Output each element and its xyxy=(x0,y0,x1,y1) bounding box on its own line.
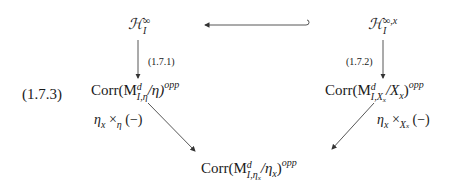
right-diagonal-arrow xyxy=(332,103,374,149)
equation-number: (1.7.3) xyxy=(22,86,62,103)
label-right-diagonal: ηx ×Xx (−) xyxy=(377,113,430,127)
node-top-right: ℋ∞,xI xyxy=(368,16,397,36)
node-top-left: ℋ∞I xyxy=(128,16,150,36)
hook-icon xyxy=(306,20,309,25)
label-1-7-1: (1.7.1) xyxy=(148,56,175,67)
left-diagonal-arrow xyxy=(148,103,195,151)
label-left-diagonal: ηx ×η (−) xyxy=(94,113,143,127)
node-bottom: Corr(MdI,ηx/ηx)opp xyxy=(201,160,297,180)
node-mid-right: Corr(MdI,Xx/Xx)opp xyxy=(325,82,424,102)
node-mid-left: Corr(MdI,η/η)opp xyxy=(91,82,179,102)
label-1-7-2: (1.7.2) xyxy=(346,56,373,67)
